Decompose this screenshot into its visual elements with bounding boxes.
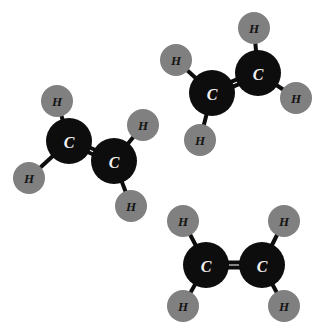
molecule-group-ethene-bottom-right: HHHHCC bbox=[167, 205, 300, 322]
carbon-atom: C bbox=[46, 118, 92, 164]
carbon-layer: CC bbox=[189, 50, 281, 116]
carbon-sphere bbox=[91, 138, 137, 184]
carbon-atom: C bbox=[91, 138, 137, 184]
hydrogen-atom: H bbox=[167, 205, 199, 237]
hydrogen-atom: H bbox=[115, 190, 147, 222]
carbon-sphere bbox=[183, 242, 229, 288]
molecule-group-ethene-top-right: HHHHCC bbox=[160, 12, 312, 156]
hydrogen-atom: H bbox=[13, 162, 45, 194]
hydrogen-sphere bbox=[41, 85, 73, 117]
hydrogen-atom: H bbox=[238, 12, 270, 44]
hydrogen-sphere bbox=[13, 162, 45, 194]
carbon-atom: C bbox=[239, 242, 285, 288]
hydrogen-sphere bbox=[238, 12, 270, 44]
carbon-atom: C bbox=[235, 50, 281, 96]
carbon-atom: C bbox=[183, 242, 229, 288]
hydrogen-sphere bbox=[115, 190, 147, 222]
hydrogen-atom: H bbox=[160, 44, 192, 76]
carbon-layer: CC bbox=[183, 242, 285, 288]
carbon-atom: C bbox=[189, 70, 235, 116]
molecule-scene: HHHHCCHHHHCCHHHHCC bbox=[0, 0, 323, 331]
hydrogen-sphere bbox=[184, 124, 216, 156]
hydrogen-atom: H bbox=[280, 82, 312, 114]
carbon-sphere bbox=[235, 50, 281, 96]
hydrogen-sphere bbox=[268, 205, 300, 237]
hydrogen-sphere bbox=[268, 290, 300, 322]
hydrogen-atom: H bbox=[41, 85, 73, 117]
hydrogen-atom: H bbox=[268, 205, 300, 237]
hydrogen-sphere bbox=[280, 82, 312, 114]
hydrogen-sphere bbox=[167, 290, 199, 322]
hydrogen-sphere bbox=[167, 205, 199, 237]
hydrogen-sphere bbox=[160, 44, 192, 76]
carbon-sphere bbox=[239, 242, 285, 288]
hydrogen-atom: H bbox=[127, 109, 159, 141]
molecule-diagram-canvas: HHHHCCHHHHCCHHHHCC bbox=[0, 0, 323, 331]
hydrogen-atom: H bbox=[167, 290, 199, 322]
carbon-sphere bbox=[189, 70, 235, 116]
molecule-group-ethene-left: HHHHCC bbox=[13, 85, 159, 222]
hydrogen-atom: H bbox=[268, 290, 300, 322]
hydrogen-atom: H bbox=[184, 124, 216, 156]
carbon-layer: CC bbox=[46, 118, 137, 184]
carbon-sphere bbox=[46, 118, 92, 164]
hydrogen-sphere bbox=[127, 109, 159, 141]
